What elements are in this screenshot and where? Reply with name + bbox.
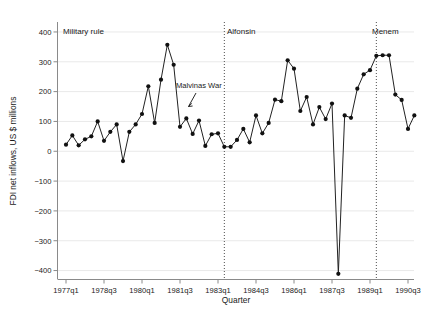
data-point [178, 125, 182, 129]
annotation-malvinas-war: Malvinas War [176, 81, 222, 107]
y-tick-label: −200 [34, 207, 51, 216]
fdi-line-chart: 4003002001000−100−200−300−400 1977q11978… [0, 0, 424, 318]
data-point [381, 53, 385, 57]
y-axis: 4003002001000−100−200−300−400 [34, 22, 57, 279]
data-point [324, 117, 328, 121]
x-tick-label: 1989q1 [357, 286, 382, 295]
fdi-series-line [66, 45, 414, 274]
y-tick-label: 300 [39, 58, 52, 67]
data-point [343, 113, 347, 117]
x-tick-label: 1978q3 [91, 286, 116, 295]
data-point [393, 92, 397, 96]
data-point [184, 116, 188, 120]
data-point [400, 98, 404, 102]
data-point [406, 127, 410, 131]
data-point [108, 130, 112, 134]
data-point [102, 139, 106, 143]
x-tick-label: 1990q3 [395, 286, 420, 295]
data-point [368, 68, 372, 72]
data-point [241, 127, 245, 131]
x-tick-label: 1983q1 [205, 286, 230, 295]
malvinas-war-arrow-shaft [189, 93, 197, 107]
data-point [317, 105, 321, 109]
data-point [165, 43, 169, 47]
data-point [305, 95, 309, 99]
data-point [273, 98, 277, 102]
data-point [349, 116, 353, 120]
x-tick-label: 1981q3 [167, 286, 192, 295]
y-tick-label: −100 [34, 177, 51, 186]
y-tick-label: 200 [39, 87, 52, 96]
data-point [159, 78, 163, 82]
data-point [146, 84, 150, 88]
data-point [197, 118, 201, 122]
data-point [260, 131, 264, 135]
x-tick-label: 1987q3 [319, 286, 344, 295]
y-axis-title: FDI net inflows, US $ millions [8, 97, 18, 206]
y-tick-label: −400 [34, 266, 51, 275]
data-point [115, 122, 119, 126]
data-point [77, 143, 81, 147]
data-point [292, 67, 296, 71]
x-axis-title: Quarter [222, 295, 251, 305]
chart-figure: 4003002001000−100−200−300−400 1977q11978… [0, 0, 424, 318]
data-point [330, 101, 334, 105]
data-point [311, 122, 315, 126]
x-tick-label: 1984q3 [243, 286, 268, 295]
x-tick-label: 1980q1 [129, 286, 154, 295]
data-point [127, 130, 131, 134]
data-point [83, 137, 87, 141]
y-tick-label: −300 [34, 237, 51, 246]
data-point [134, 122, 138, 126]
data-point [254, 113, 258, 117]
data-point [121, 159, 125, 163]
data-point [64, 143, 68, 147]
data-point [248, 140, 252, 144]
data-point [374, 54, 378, 58]
data-point [140, 112, 144, 116]
data-point [267, 121, 271, 125]
data-point [235, 138, 239, 142]
y-tick-label: 100 [39, 117, 52, 126]
data-point [203, 144, 207, 148]
data-point [298, 109, 302, 113]
x-axis: 1977q11978q31980q11981q31983q11984q31986… [53, 280, 420, 295]
regime-label-alfonsin: Alfonsin [227, 27, 255, 36]
data-point [210, 132, 214, 136]
data-point [286, 58, 290, 62]
data-point [153, 121, 157, 125]
data-point [96, 119, 100, 123]
y-tick-label: 0 [47, 147, 51, 156]
data-point [387, 53, 391, 57]
regime-label-menem: Menem [372, 27, 399, 36]
malvinas-war-label: Malvinas War [176, 81, 222, 90]
y-tick-label: 400 [39, 28, 52, 37]
data-point [412, 113, 416, 117]
data-point [89, 134, 93, 138]
data-point [355, 87, 359, 91]
data-point [336, 272, 340, 276]
data-point [216, 131, 220, 135]
data-point [222, 145, 226, 149]
gridlines [58, 32, 415, 271]
data-point [172, 63, 176, 67]
regime-label-military-rule: Military rule [63, 27, 104, 36]
x-tick-label: 1986q1 [281, 286, 306, 295]
data-point [229, 145, 233, 149]
data-point [70, 133, 74, 137]
data-point [191, 132, 195, 136]
x-tick-label: 1977q1 [53, 286, 78, 295]
data-point [362, 72, 366, 76]
data-point [279, 99, 283, 103]
